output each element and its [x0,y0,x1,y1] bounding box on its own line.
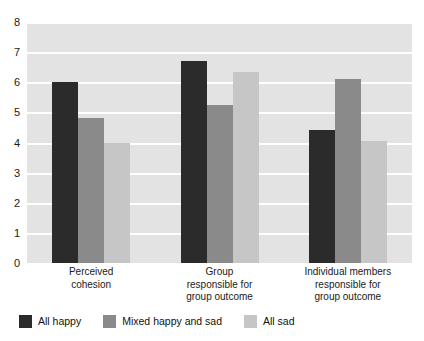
bar [207,105,233,263]
y-axis-tick-label: 8 [14,17,20,28]
x-axis-category-label-line: responsible for [145,279,293,292]
legend-item[interactable]: All sad [244,315,295,328]
bar [78,118,104,263]
legend-swatch-icon [244,315,257,328]
chart-legend: All happyMixed happy and sadAll sad [19,311,317,331]
x-axis-category-label: Groupresponsible forgroup outcome [145,266,293,304]
bar [335,79,361,263]
gridline [27,52,412,54]
gridline [27,22,412,24]
legend-swatch-icon [103,315,116,328]
legend-item[interactable]: Mixed happy and sad [103,315,222,328]
x-axis-category-label-line: group outcome [274,291,422,304]
y-axis-tick-label: 4 [14,137,20,148]
y-axis-tick-label: 2 [14,197,20,208]
y-axis-tick-label: 6 [14,77,20,88]
y-axis-tick-label: 3 [14,167,20,178]
x-axis-category-label-line: cohesion [17,279,165,292]
bar [104,143,130,264]
legend-label: All sad [263,315,295,327]
y-axis-tick-label: 1 [14,227,20,238]
plot-area [27,22,412,263]
x-axis-category-label-line: group outcome [145,291,293,304]
legend-item[interactable]: All happy [19,315,81,328]
legend-label: Mixed happy and sad [122,315,222,327]
x-axis-category-label-line: Group [145,266,293,279]
legend-label: All happy [38,315,81,327]
x-axis-category-label-line: Perceived [17,266,165,279]
bar-chart: 876543210 PerceivedcohesionGroupresponsi… [0,0,424,341]
bar [52,82,78,263]
x-axis-category-label-line: Individual members [274,266,422,279]
y-axis: 876543210 [0,22,27,263]
legend-swatch-icon [19,315,32,328]
bar [361,141,387,263]
x-axis-labels: PerceivedcohesionGroupresponsible forgro… [27,266,412,306]
x-axis-category-label: Individual membersresponsible forgroup o… [274,266,422,304]
bar [309,130,335,263]
bar [233,72,259,263]
y-axis-tick-label: 5 [14,107,20,118]
x-axis-category-label-line: responsible for [274,279,422,292]
y-axis-tick-label: 7 [14,47,20,58]
bar [181,61,207,263]
x-axis-category-label: Perceivedcohesion [17,266,165,291]
